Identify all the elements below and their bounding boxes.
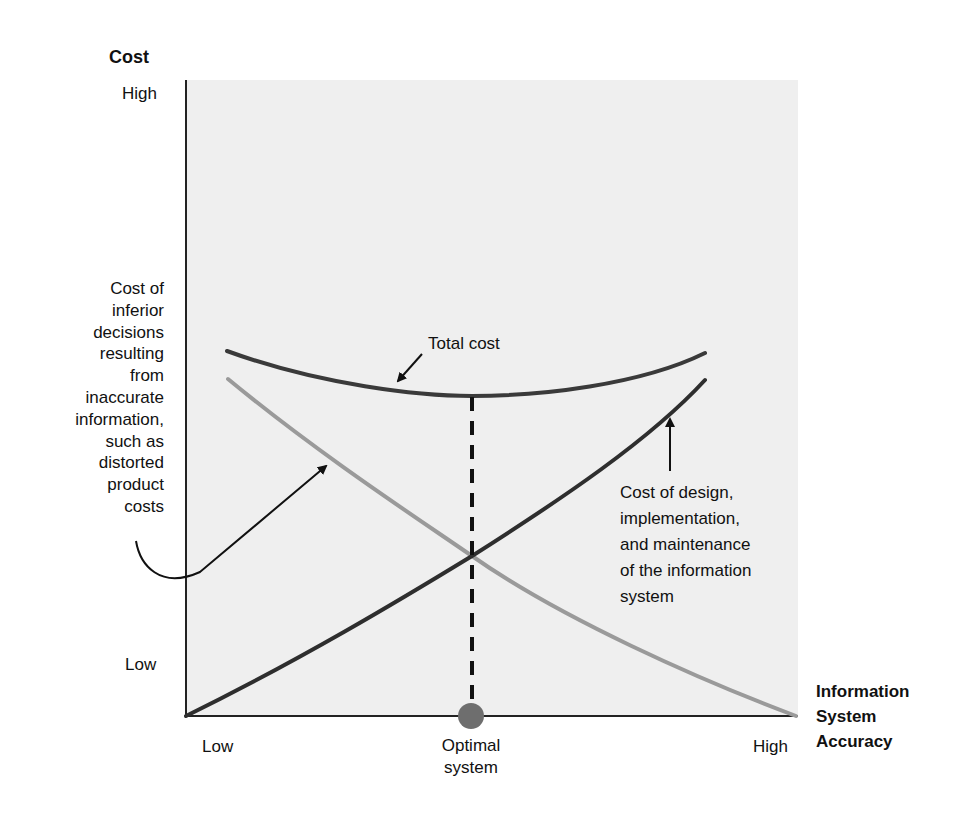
y-axis-title: Cost (109, 46, 149, 68)
total-cost-arrow-icon (398, 354, 422, 381)
total-cost-curve (227, 351, 705, 396)
inferior-decisions-arrow-icon (136, 466, 326, 578)
y-tick-low: Low (125, 654, 156, 676)
x-tick-optimal-system: Optimal system (421, 735, 521, 779)
x-axis-title: Information System Accuracy (816, 679, 910, 754)
optimal-marker (458, 703, 484, 729)
x-tick-low: Low (202, 736, 233, 758)
total-cost-label: Total cost (428, 333, 500, 355)
design-cost-label: Cost of design, implementation, and main… (620, 480, 751, 610)
x-tick-high: High (753, 736, 788, 758)
y-tick-high: High (122, 83, 157, 105)
inferior-decisions-label: Cost of inferior decisions resulting fro… (62, 278, 164, 518)
